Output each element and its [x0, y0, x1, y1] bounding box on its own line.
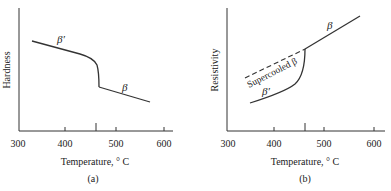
- tick-label-a-500: 500: [109, 138, 124, 149]
- label-b-supercooled: Supercooled β: [245, 56, 298, 90]
- xlabel-a: Temperature, ° C: [61, 156, 130, 167]
- panel-b: β Supercooled β β′ 300 400 500 600 Tempe…: [209, 8, 385, 185]
- curve-b-beta: [305, 16, 360, 49]
- label-a-beta: β: [121, 81, 128, 93]
- panel-label-b: (b): [299, 173, 311, 185]
- axes-b: [227, 8, 385, 131]
- label-a-beta-prime: β′: [56, 33, 65, 45]
- ylabel-a: Hardness: [1, 51, 12, 88]
- tick-label-a-600: 600: [157, 138, 172, 149]
- tick-label-b-600: 600: [367, 138, 382, 149]
- axes-a: [19, 8, 173, 131]
- label-b-beta: β: [326, 19, 333, 31]
- figure: β′ β 300 400 500 600 Temperature, ° C (a…: [0, 0, 391, 191]
- xlabel-b: Temperature, ° C: [271, 156, 340, 167]
- tick-label-b-400: 400: [267, 138, 282, 149]
- ylabel-b: Resistivity: [209, 49, 220, 92]
- label-b-beta-prime: β′: [261, 85, 270, 97]
- tick-label-a-300: 300: [11, 138, 26, 149]
- tick-label-a-400: 400: [58, 138, 73, 149]
- tick-label-b-500: 500: [317, 138, 332, 149]
- tick-label-b-300: 300: [221, 138, 236, 149]
- panel-label-a: (a): [87, 173, 98, 185]
- panel-a: β′ β 300 400 500 600 Temperature, ° C (a…: [1, 8, 173, 185]
- curve-a-beta-prime: [32, 41, 99, 87]
